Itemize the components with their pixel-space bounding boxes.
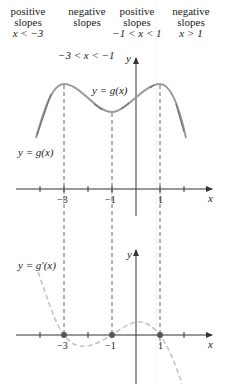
top-graph: y x −3 −1 1 (16, 52, 213, 216)
zero-dot-1 (157, 332, 163, 338)
top-y-axis-label: y (125, 52, 131, 64)
bottom-tick-1: 1 (158, 340, 163, 351)
bottom-y-axis-label: y (126, 248, 132, 260)
bottom-x-axis-label: x (207, 338, 213, 350)
bottom-graph: y x −3 −1 1 y = g′(x) (16, 248, 213, 384)
bottom-tick-neg1: −1 (105, 340, 116, 351)
top-tick-neg1: −1 (105, 194, 116, 205)
g-curve-label-left: y = g(x) (17, 146, 54, 159)
derivative-sign-diagram: positive slopes x < −3 negative slopes −… (0, 0, 228, 384)
dashed-guides (64, 85, 160, 345)
graphs: y x −3 −1 1 (0, 0, 228, 384)
top-tick-1: 1 (158, 194, 163, 205)
top-tick-neg3: −3 (57, 194, 68, 205)
bottom-tick-neg3: −3 (57, 340, 68, 351)
g-prime-curve-label: y = g′(x) (17, 259, 56, 272)
top-x-axis-label: x (207, 192, 213, 204)
g-curve-label-inner: y = g(x) (91, 84, 128, 97)
zero-dot-neg1 (109, 332, 115, 338)
zero-dot-neg3 (61, 332, 67, 338)
